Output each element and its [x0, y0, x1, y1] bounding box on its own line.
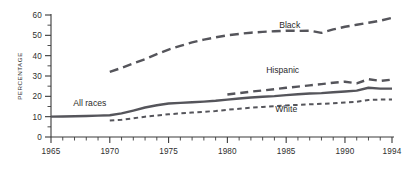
annotation-hispanic: Hispanic [266, 65, 300, 75]
x-axis-tick-labels: 1965197019751980198519901994 [42, 147, 402, 156]
x-tick-label: 1970 [100, 147, 119, 156]
y-tick-label: 30 [33, 72, 43, 81]
y-tick-label: 40 [33, 52, 43, 61]
axis-ticks [45, 15, 392, 143]
y-tick-label: 60 [33, 11, 43, 20]
annotation-all-races: All races [73, 98, 106, 108]
annotation-white: White [275, 104, 297, 114]
series-annotations: BlackHispanicWhiteAll races [73, 20, 301, 113]
y-axis-title: PERCENTAGE [16, 52, 23, 100]
chart-axes [51, 14, 394, 137]
annotation-black: Black [279, 20, 301, 30]
bottom-margin-strip [0, 168, 419, 174]
x-tick-label: 1994 [383, 147, 402, 156]
y-tick-label: 0 [37, 133, 42, 142]
y-tick-label: 20 [33, 92, 43, 101]
line-chart: 1965197019751980198519901994 01020304050… [0, 0, 419, 174]
x-tick-label: 1990 [336, 147, 355, 156]
y-tick-label: 50 [33, 31, 43, 40]
x-tick-label: 1975 [159, 147, 178, 156]
series-line-white [110, 99, 392, 120]
y-tick-label: 10 [33, 113, 43, 122]
x-tick-label: 1980 [218, 147, 237, 156]
x-tick-label: 1985 [277, 147, 296, 156]
x-tick-label: 1965 [42, 147, 61, 156]
chart-container: 1965197019751980198519901994 01020304050… [0, 0, 419, 174]
series-line-black [110, 18, 392, 72]
y-axis-tick-labels: 0102030405060 [33, 11, 43, 142]
y-axis-title-text: PERCENTAGE [16, 52, 23, 100]
